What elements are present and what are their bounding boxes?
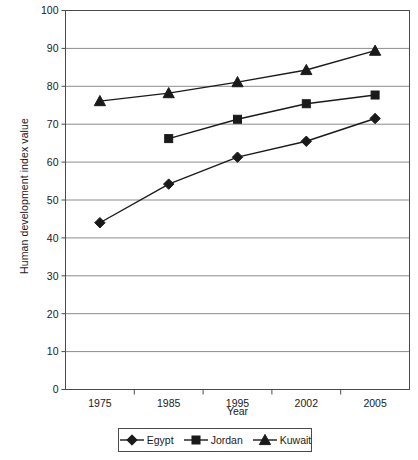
legend-label: Egypt (147, 435, 174, 446)
diamond-marker-icon (164, 179, 174, 189)
y-tick-label: 70 (47, 118, 59, 130)
legend-item-egypt: Egypt (119, 434, 174, 446)
square-marker-icon (371, 91, 379, 99)
series-line (169, 95, 375, 139)
square-marker-icon (165, 135, 173, 143)
y-tick-label: 100 (41, 4, 59, 16)
triangle-marker-icon (370, 45, 381, 55)
diamond-marker-icon (301, 136, 311, 146)
square-marker-icon (302, 100, 310, 108)
y-tick-label: 10 (47, 345, 59, 357)
chart-legend: EgyptJordanKuwait (118, 428, 312, 452)
y-tick-label: 90 (47, 42, 59, 54)
y-tick-label: 30 (47, 270, 59, 282)
diamond-marker-icon (127, 435, 137, 445)
square-marker-icon (234, 115, 242, 123)
legend-item-kuwait: Kuwait (252, 434, 312, 446)
diamond-marker-icon (232, 152, 242, 162)
y-tick-label: 60 (47, 156, 59, 168)
square-marker-icon (192, 436, 200, 444)
legend-label: Jordan (211, 435, 243, 446)
y-tick-label: 50 (47, 194, 59, 206)
diamond-marker-icon (370, 113, 380, 123)
diamond-marker-icon (119, 434, 145, 446)
series-egypt (95, 113, 381, 228)
plot-area: 0102030405060708090100197519851995200220… (0, 0, 418, 418)
triangle-marker-icon (252, 434, 278, 446)
chart-figure: Human development index value 0102030405… (0, 0, 418, 460)
legend-item-jordan: Jordan (183, 434, 243, 446)
series-jordan (165, 91, 379, 143)
x-axis-title: Year (65, 405, 410, 417)
series-line (100, 119, 375, 223)
y-gridlines: 0102030405060708090100 (41, 4, 410, 395)
y-tick-label: 80 (47, 80, 59, 92)
y-tick-label: 20 (47, 308, 59, 320)
square-marker-icon (183, 434, 209, 446)
diamond-marker-icon (95, 218, 105, 228)
y-tick-label: 0 (53, 383, 59, 395)
y-tick-label: 40 (47, 232, 59, 244)
series-kuwait (94, 45, 380, 106)
legend-label: Kuwait (280, 435, 312, 446)
chart-canvas: 0102030405060708090100197519851995200220… (0, 0, 418, 418)
